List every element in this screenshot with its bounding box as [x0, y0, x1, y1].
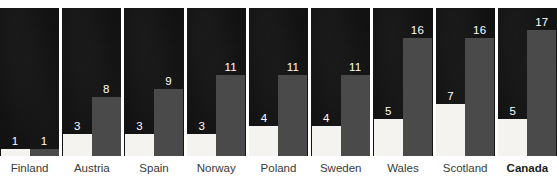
bar-norway-white-bar[interactable]: [187, 134, 216, 156]
bar-value-label: 4: [312, 112, 341, 124]
bar-value-label: 11: [341, 61, 370, 73]
bar-group: 516: [373, 8, 432, 156]
bar-wales-grey-bar[interactable]: [403, 38, 432, 156]
bar-value-label: 5: [498, 105, 527, 117]
bar-value-label: 7: [436, 90, 465, 102]
category-label-austria: Austria: [62, 160, 121, 182]
chart-panel-sweden: 411: [311, 8, 370, 156]
bar-value-label: 8: [92, 83, 121, 95]
chart-panel-austria: 38: [62, 8, 121, 156]
chart-panel-row: 113839311411411516716517: [0, 8, 557, 156]
bar-slot-white-bar: 3: [125, 8, 154, 156]
bar-slot-white-bar: 1: [1, 8, 30, 156]
bar-value-label: 3: [187, 120, 216, 132]
bar-value-label: 9: [154, 75, 183, 87]
bar-value-label: 3: [125, 120, 154, 132]
bar-value-label: 1: [30, 135, 59, 147]
bar-value-label: 1: [1, 135, 30, 147]
bar-slot-white-bar: 3: [187, 8, 216, 156]
bar-value-label: 11: [278, 61, 307, 73]
bar-canada-grey-bar[interactable]: [527, 30, 556, 156]
bar-sweden-grey-bar[interactable]: [341, 75, 370, 156]
bar-value-label: 16: [465, 24, 494, 36]
bar-canada-white-bar[interactable]: [498, 119, 527, 156]
bar-slot-grey-bar: 11: [341, 8, 370, 156]
bar-value-label: 16: [403, 24, 432, 36]
bar-slot-white-bar: 5: [374, 8, 403, 156]
bar-value-label: 3: [63, 120, 92, 132]
bar-group: 411: [311, 8, 370, 156]
chart-panel-wales: 516: [373, 8, 432, 156]
bar-slot-grey-bar: 17: [527, 8, 556, 156]
bar-value-label: 17: [527, 16, 556, 28]
chart-panel-poland: 411: [249, 8, 308, 156]
bar-slot-grey-bar: 1: [30, 8, 59, 156]
bar-slot-white-bar: 5: [498, 8, 527, 156]
category-label-spain: Spain: [124, 160, 183, 182]
bar-group: 716: [436, 8, 495, 156]
category-label-sweden: Sweden: [311, 160, 370, 182]
bar-value-label: 5: [374, 105, 403, 117]
category-label-row: FinlandAustriaSpainNorwayPolandSwedenWal…: [0, 160, 557, 182]
category-label-canada: Canada: [498, 160, 557, 182]
bar-norway-grey-bar[interactable]: [216, 75, 245, 156]
bar-slot-grey-bar: 16: [465, 8, 494, 156]
chart-panel-spain: 39: [124, 8, 183, 156]
bar-group: 411: [249, 8, 308, 156]
bar-group: 311: [187, 8, 246, 156]
category-label-wales: Wales: [373, 160, 432, 182]
bar-scotland-grey-bar[interactable]: [465, 38, 494, 156]
bar-slot-grey-bar: 11: [278, 8, 307, 156]
bar-finland-white-bar[interactable]: [1, 149, 30, 156]
chart-panel-canada: 517: [498, 8, 557, 156]
bar-austria-white-bar[interactable]: [63, 134, 92, 156]
category-label-scotland: Scotland: [436, 160, 495, 182]
bar-value-label: 11: [216, 61, 245, 73]
bar-slot-grey-bar: 16: [403, 8, 432, 156]
bar-wales-white-bar[interactable]: [374, 119, 403, 156]
chart-panel-finland: 11: [0, 8, 59, 156]
chart-panel-norway: 311: [187, 8, 246, 156]
bar-finland-grey-bar[interactable]: [30, 149, 59, 156]
bar-value-label: 4: [249, 112, 278, 124]
bar-spain-grey-bar[interactable]: [154, 89, 183, 156]
small-multiples-bar-chart: 113839311411411516716517 FinlandAustriaS…: [0, 0, 557, 186]
bar-slot-grey-bar: 9: [154, 8, 183, 156]
bar-spain-white-bar[interactable]: [125, 134, 154, 156]
bar-group: 39: [124, 8, 183, 156]
bar-group: 11: [0, 8, 59, 156]
category-label-finland: Finland: [0, 160, 59, 182]
bar-slot-white-bar: 7: [436, 8, 465, 156]
bar-poland-white-bar[interactable]: [249, 126, 278, 156]
category-label-norway: Norway: [187, 160, 246, 182]
bar-scotland-white-bar[interactable]: [436, 104, 465, 156]
bar-slot-white-bar: 3: [63, 8, 92, 156]
bar-sweden-white-bar[interactable]: [312, 126, 341, 156]
bar-slot-grey-bar: 8: [92, 8, 121, 156]
bar-austria-grey-bar[interactable]: [92, 97, 121, 156]
bar-slot-white-bar: 4: [249, 8, 278, 156]
bar-group: 517: [498, 8, 557, 156]
category-label-poland: Poland: [249, 160, 308, 182]
bar-poland-grey-bar[interactable]: [278, 75, 307, 156]
bar-slot-white-bar: 4: [312, 8, 341, 156]
bar-group: 38: [62, 8, 121, 156]
chart-panel-scotland: 716: [436, 8, 495, 156]
bar-slot-grey-bar: 11: [216, 8, 245, 156]
